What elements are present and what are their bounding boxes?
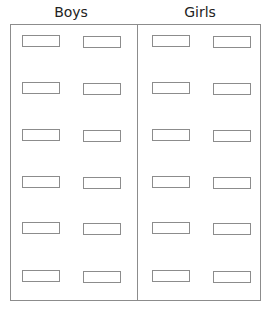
boys-answer-box[interactable] (22, 82, 60, 94)
girls-heading: Girls (170, 4, 230, 20)
girls-answer-box[interactable] (152, 129, 190, 141)
boys-answer-box[interactable] (83, 130, 121, 142)
boys-answer-box[interactable] (22, 270, 60, 282)
boys-answer-box[interactable] (83, 271, 121, 283)
column-divider (137, 24, 138, 301)
girls-answer-box[interactable] (213, 83, 251, 95)
girls-answer-box[interactable] (213, 177, 251, 189)
boys-answer-box[interactable] (22, 35, 60, 47)
girls-answer-box[interactable] (213, 271, 251, 283)
boys-answer-box[interactable] (83, 177, 121, 189)
boys-answer-box[interactable] (22, 129, 60, 141)
boys-answer-box[interactable] (22, 176, 60, 188)
girls-answer-box[interactable] (152, 270, 190, 282)
girls-answer-box[interactable] (213, 36, 251, 48)
girls-answer-box[interactable] (152, 82, 190, 94)
girls-answer-box[interactable] (152, 222, 190, 234)
boys-answer-box[interactable] (83, 83, 121, 95)
girls-answer-box[interactable] (152, 176, 190, 188)
boys-answer-box[interactable] (22, 222, 60, 234)
girls-answer-box[interactable] (152, 35, 190, 47)
boys-answer-box[interactable] (83, 36, 121, 48)
sorting-table-frame (10, 24, 261, 301)
girls-answer-box[interactable] (213, 223, 251, 235)
boys-heading: Boys (41, 4, 101, 20)
girls-answer-box[interactable] (213, 130, 251, 142)
boys-answer-box[interactable] (83, 223, 121, 235)
